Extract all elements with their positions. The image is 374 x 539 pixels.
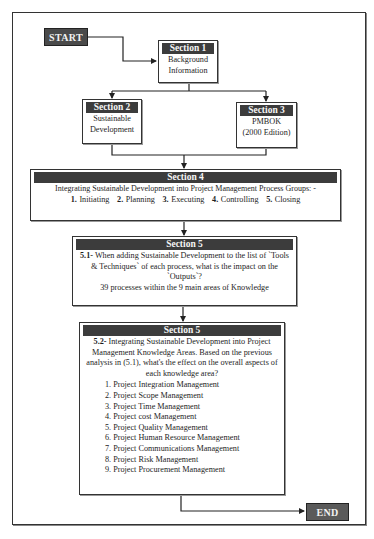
section-5-1-header: Section 5 xyxy=(76,239,293,250)
section-5-2-question: 5.2- Integrating Sustainable Development… xyxy=(83,337,281,379)
section-5-1-text: When adding Sustainable Development to t… xyxy=(91,251,289,281)
section-5-2-header: Section 5 xyxy=(83,325,281,336)
process-group-item: 3. Executing xyxy=(163,195,205,204)
section-5-2-number: 5.2- xyxy=(94,337,107,346)
knowledge-area-item: 9. Project Procurement Management xyxy=(105,465,281,476)
section-5-1-box: Section 5 5.1- When adding Sustainable D… xyxy=(72,236,297,306)
process-group-item: 1. Initiating xyxy=(71,195,110,204)
knowledge-area-item: 1. Project Integration Management xyxy=(105,380,281,391)
knowledge-area-item: 4. Project cost Management xyxy=(105,412,281,423)
knowledge-area-item: 2. Project Scope Management xyxy=(105,391,281,402)
section-1-box: Section 1 Background Information xyxy=(158,40,218,83)
process-group-item: 2. Planning xyxy=(117,195,155,204)
section-3-box: Section 3 PMBOK (2000 Edition) xyxy=(236,102,297,148)
start-label: START xyxy=(49,32,83,43)
section-4-header: Section 4 xyxy=(34,172,337,183)
end-label: END xyxy=(316,507,338,518)
process-groups-list: 1. Initiating 2. Planning 3. Executing 4… xyxy=(34,195,337,206)
section-2-box: Section 2 Sustainable Development xyxy=(82,99,142,144)
knowledge-areas-list: 1. Project Integration Management 2. Pro… xyxy=(83,380,281,475)
knowledge-area-item: 6. Project Human Resource Management xyxy=(105,433,281,444)
knowledge-area-item: 3. Project Time Management xyxy=(105,402,281,413)
section-5-2-box: Section 5 5.2- Integrating Sustainable D… xyxy=(79,322,285,495)
section-3-line-2: (2000 Edition) xyxy=(240,128,293,139)
section-5-2-text: Integrating Sustainable Development into… xyxy=(86,337,277,378)
section-1-header: Section 1 xyxy=(162,43,214,54)
process-group-item: 5. Closing xyxy=(266,195,300,204)
section-2-line-2: Development xyxy=(86,125,138,136)
start-terminal: START xyxy=(44,28,88,46)
knowledge-area-item: 5. Project Quality Management xyxy=(105,423,281,434)
section-5-1-note: 39 processes within the 9 main areas of … xyxy=(76,283,293,294)
end-terminal: END xyxy=(306,503,349,521)
section-4-intro: Integrating Sustainable Development into… xyxy=(34,184,337,195)
process-group-item: 4. Controlling xyxy=(212,195,258,204)
section-3-header: Section 3 xyxy=(240,105,293,116)
knowledge-area-item: 7. Project Communications Management xyxy=(105,444,281,455)
section-5-1-number: 5.1- xyxy=(80,251,93,260)
section-3-line-1: PMBOK xyxy=(240,117,293,128)
section-1-line-1: Background xyxy=(162,55,214,66)
section-5-1-question: 5.1- When adding Sustainable Development… xyxy=(76,251,293,283)
section-1-line-2: Information xyxy=(162,66,214,77)
knowledge-area-item: 8. Project Risk Management xyxy=(105,455,281,466)
section-2-line-1: Sustainable xyxy=(86,114,138,125)
section-2-header: Section 2 xyxy=(86,102,138,113)
section-4-box: Section 4 Integrating Sustainable Develo… xyxy=(30,169,341,221)
